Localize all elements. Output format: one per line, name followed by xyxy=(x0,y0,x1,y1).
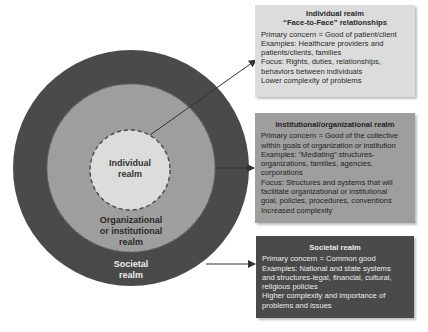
box-line: Examples: National and state systems xyxy=(262,264,408,273)
box-line: facilitate organizational or institution… xyxy=(261,187,409,196)
box-line: Increased complexity xyxy=(261,206,409,215)
box-line: organizations, families, agencies, xyxy=(261,159,409,168)
box-line: and structures-legal, financial, cultura… xyxy=(262,273,408,282)
societal-realm-label: Societalrealm xyxy=(91,259,171,281)
box-line: Higher complexity and importance of xyxy=(262,291,408,300)
box-line: Primary concern = Common good xyxy=(262,254,408,263)
institutional-realm-box: Institutional/organizational realm Prima… xyxy=(255,113,415,223)
box-line: within goals of organization or institut… xyxy=(261,141,409,150)
box-line: Primary concern = Good of patient/client xyxy=(261,30,409,39)
box-title: Individual realm xyxy=(261,9,409,18)
box-line: behaviors between individuals xyxy=(261,67,409,76)
box-line: Lower complexity of problems xyxy=(261,76,409,85)
box-line: religious policies xyxy=(262,282,408,291)
box-line: corporations xyxy=(261,168,409,177)
box-line: Examples: “Mediating” structures- xyxy=(261,150,409,159)
box-line: Focus: Rights, duties, relationships, xyxy=(261,57,409,66)
individual-realm-label: Individualrealm xyxy=(100,158,160,180)
box-line: Primary concern = Good of the collective xyxy=(261,131,409,140)
societal-realm-box: Societal realm Primary concern = Common … xyxy=(256,236,414,318)
box-line: Examples: Healthcare providers and xyxy=(261,39,409,48)
box-line: patients/clients, families xyxy=(261,48,409,57)
box-line: Focus: Structures and systems that will xyxy=(261,178,409,187)
organizational-realm-label: Organizationalor institutionalrealm xyxy=(81,215,181,248)
box-line: goal, policies, procedures, conventions xyxy=(261,196,409,205)
box-line: problems and issues xyxy=(262,301,408,310)
box-title: Societal realm xyxy=(262,243,408,252)
box-subtitle: “Face-to-Face” relationships xyxy=(261,18,409,27)
individual-realm-box: Individual realm “Face-to-Face” relation… xyxy=(255,5,415,97)
box-title: Institutional/organizational realm xyxy=(261,120,409,129)
